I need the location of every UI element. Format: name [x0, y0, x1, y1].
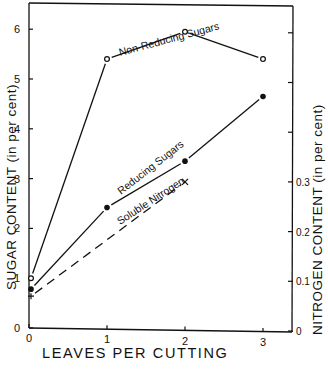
- data-point: [29, 276, 34, 281]
- chart-plot: 0123456 00.10.20.3 0123 Non-Reducing Sug…: [0, 0, 328, 370]
- data-point: [182, 158, 188, 164]
- left-tick-label: 6: [14, 23, 20, 35]
- plot-frame: [29, 3, 293, 332]
- series-reducing-sugars: [28, 94, 266, 292]
- left-tick-label: 0: [14, 322, 20, 334]
- x-tick-label: 0: [26, 332, 32, 344]
- right-axis-ticks: 00.10.20.3: [288, 33, 310, 337]
- right-tick-label: 0.1: [296, 276, 310, 287]
- data-point: [261, 57, 266, 62]
- right-tick-label: 0.3: [296, 177, 310, 188]
- right-tick-label: 0.2: [296, 227, 310, 238]
- data-point: [104, 205, 110, 211]
- right-tick-label: 0: [296, 326, 302, 337]
- x-axis-label: LEAVES PER CUTTING: [42, 345, 228, 361]
- series-non-reducing-sugars: [29, 29, 266, 280]
- y-axis-left-label: SUGAR CONTENT (in per cent): [4, 84, 19, 290]
- y-axis-right-label: NITROGEN CONTENT (in per cent): [310, 104, 325, 335]
- data-point: [28, 286, 34, 292]
- x-tick-label: 1: [104, 333, 110, 345]
- data-point: [260, 94, 266, 100]
- data-point: [105, 57, 110, 62]
- x-tick-label: 3: [260, 336, 266, 348]
- series-labels: Non-Reducing Sugars Reducing Sugars Solu…: [115, 20, 221, 227]
